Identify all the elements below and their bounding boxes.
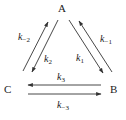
label-k-minus-3: k−3	[57, 99, 69, 112]
reaction-triangle-diagram: A C B k−2 k2 k1 k−1 k3 k−3	[0, 0, 126, 120]
node-b: B	[110, 83, 117, 95]
label-k-minus-2: k−2	[18, 31, 30, 44]
node-c: C	[4, 83, 11, 95]
label-k1: k1	[76, 52, 84, 65]
node-a: A	[58, 2, 66, 14]
label-k2: k2	[44, 53, 52, 66]
label-k-minus-1: k−1	[100, 33, 112, 46]
arrow-a-to-b	[69, 20, 103, 73]
label-k3: k3	[57, 71, 65, 84]
